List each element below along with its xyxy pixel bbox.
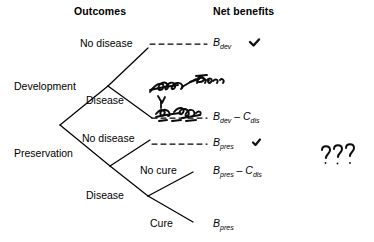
branch-label-preservation: Preservation (14, 148, 73, 159)
payoff-base: B (213, 164, 220, 176)
decision-tree-figure: Outcomes Net benefits No disease Develo (0, 0, 374, 242)
payoff-sub: pres (220, 143, 234, 150)
payoff-dev-disease: Bdev – Cdis (213, 111, 260, 124)
node-label-pres-no-cure: No cure (140, 165, 177, 176)
payoff-sub-2: dis (251, 117, 260, 124)
payoff-dev-no-disease: Bdev (213, 37, 231, 50)
payoff-sub-2: dis (253, 171, 262, 178)
payoff-operator: – (234, 164, 246, 176)
payoff-base-2: C (243, 110, 251, 122)
payoff-base: B (213, 36, 220, 48)
node-label-pres-cure: Cure (150, 218, 173, 229)
node-label-dev-no-disease: No disease (80, 38, 133, 49)
payoff-sub: dev (220, 117, 231, 124)
payoff-base: B (213, 217, 220, 229)
payoff-base: B (213, 110, 220, 122)
node-label-pres-no-disease: No disease (82, 133, 135, 144)
payoff-pres-no-cure: Bpres – Cdis (213, 165, 262, 178)
payoff-pres-cure: Bpres (213, 218, 234, 231)
payoff-base-2: C (245, 164, 253, 176)
payoff-operator: – (231, 110, 243, 122)
branch-label-development: Development (14, 81, 76, 92)
payoff-sub: pres (220, 171, 234, 178)
tree-branch-lines (0, 0, 374, 242)
branch-dev-no-disease (108, 48, 148, 86)
payoff-sub: dev (220, 43, 231, 50)
payoff-sub: pres (220, 224, 234, 231)
payoff-pres-no-disease: Bpres (213, 137, 234, 150)
payoff-base: B (213, 136, 220, 148)
node-label-pres-disease: Disease (86, 190, 124, 201)
node-label-dev-disease: Disease (86, 95, 124, 106)
